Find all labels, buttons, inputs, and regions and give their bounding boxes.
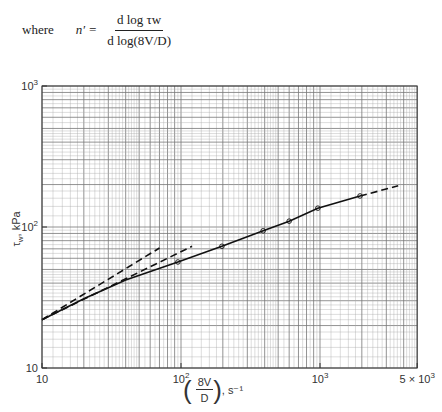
x-tick-label: 103	[312, 371, 329, 385]
curves	[42, 186, 398, 320]
y-tick-label: 103	[21, 78, 38, 92]
series-2	[42, 248, 160, 320]
x-label-left-paren: (	[183, 377, 192, 403]
x-tick-label: 5 × 103	[399, 371, 435, 385]
grid	[42, 86, 417, 368]
x-tick-label: 10	[36, 373, 48, 385]
x-label-units: , s⁻¹	[222, 384, 243, 397]
y-tick-label: 10	[26, 362, 38, 374]
x-axis-label: ( 8V D ) , s⁻¹	[183, 376, 243, 404]
x-label-fraction: 8V D	[196, 376, 213, 404]
log-log-chart: 101021035 × 10310102103 τw, kPa	[0, 0, 442, 412]
x-label-denominator: D	[200, 390, 208, 404]
x-label-numerator: 8V	[196, 376, 213, 390]
axis-ticks: 101021035 × 10310102103	[21, 78, 435, 385]
y-tick-label: 102	[21, 219, 38, 233]
x-label-right-paren: )	[213, 377, 222, 403]
